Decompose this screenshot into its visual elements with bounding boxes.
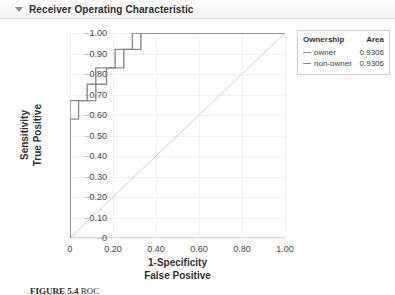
x-tick-label-3: 0.60 xyxy=(190,244,208,254)
chance-diagonal-line xyxy=(70,33,285,238)
page-title: Receiver Operating Characteristic xyxy=(29,4,193,15)
legend-body: owner0.9306non-owner0.9306 xyxy=(303,47,384,69)
legend-swatch-icon xyxy=(303,63,311,64)
figure-caption-label: FIGURE 5.4 xyxy=(30,286,79,295)
legend-row-label-1: non-owner xyxy=(303,58,357,69)
legend-header-row: Ownership Area xyxy=(303,35,384,47)
x-tick-label-4: 0.80 xyxy=(233,244,251,254)
legend-row-area-0: 0.9306 xyxy=(357,47,384,58)
y-tick-mark-0 xyxy=(98,238,102,239)
gridline-v-5 xyxy=(285,33,286,238)
roc-curves xyxy=(70,33,285,238)
x-tick-label-5: 1.00 xyxy=(276,244,294,254)
legend-row[interactable]: non-owner0.9306 xyxy=(303,58,384,69)
legend-table: Ownership Area owner0.9306non-owner0.930… xyxy=(303,35,384,69)
legend-header-area: Area xyxy=(357,35,384,47)
x-tick-label-0: 0 xyxy=(67,244,72,254)
legend-row-area-1: 0.9306 xyxy=(357,58,384,69)
legend-header-ownership: Ownership xyxy=(303,35,357,47)
x-tick-label-1: 0.20 xyxy=(104,244,122,254)
x-axis-label-line2: False Positive xyxy=(70,269,285,282)
panel-titlebar[interactable]: Receiver Operating Characteristic xyxy=(0,0,395,19)
x-axis-label-line1: 1-Specificity xyxy=(70,256,285,269)
legend-swatch-icon xyxy=(303,52,311,53)
triangle-down-icon[interactable] xyxy=(15,5,24,14)
figure-caption: FIGURE 5.4 ROC xyxy=(30,286,370,295)
legend-row[interactable]: owner0.9306 xyxy=(303,47,384,58)
y-axis-label: Sensitivity True Positive xyxy=(16,33,46,238)
y-axis-label-line1: Sensitivity xyxy=(18,110,31,160)
x-axis-label: 1-Specificity False Positive xyxy=(70,256,285,282)
y-axis-label-line2: True Positive xyxy=(31,104,44,166)
x-tick-label-2: 0.40 xyxy=(147,244,165,254)
figure-caption-text: ROC xyxy=(81,286,100,295)
legend-row-label-0: owner xyxy=(303,47,357,58)
legend: Ownership Area owner0.9306non-owner0.930… xyxy=(297,30,390,75)
